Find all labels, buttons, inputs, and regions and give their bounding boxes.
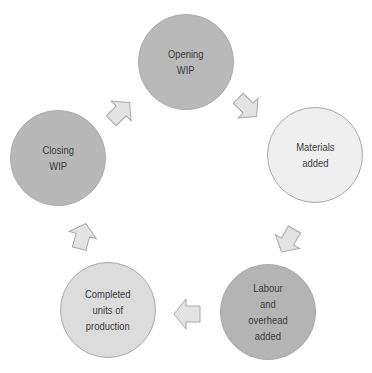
node-labour-overhead-added: Labour and overhead added [220, 264, 316, 360]
arrow-left-icon [174, 299, 200, 329]
arrow-up-right-icon [101, 92, 139, 130]
arrow-down-right-icon [228, 88, 266, 126]
node-materials-added: Materials added [267, 107, 363, 203]
node-closing-wip: Closing WIP [10, 110, 106, 206]
node-label: Closing WIP [42, 142, 73, 174]
arrow-up-icon [66, 220, 100, 252]
node-completed-units: Completed units of production [60, 262, 156, 358]
node-label: Labour and overhead added [248, 280, 287, 344]
arrow-down-left-icon [269, 222, 306, 259]
node-opening-wip: Opening WIP [138, 14, 234, 110]
node-label: Materials added [296, 139, 334, 171]
node-label: Opening WIP [168, 46, 204, 78]
node-label: Completed units of production [85, 286, 131, 334]
